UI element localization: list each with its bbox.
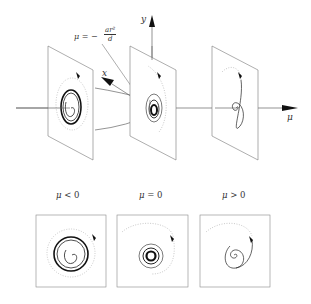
phase-portrait-mu-zero [117,215,188,287]
plane-mu-positive [212,46,258,160]
paraboloid-annotation-fraction: ar² d [104,26,116,43]
relation: > 0 [228,190,246,200]
plane-mu-negative [48,46,93,160]
case-label-mu-positive: μ > 0 [222,190,245,200]
case-label-mu-zero: μ = 0 [139,190,162,200]
phase-portrait-mu-positive [200,215,270,287]
plane-mu-zero [130,46,176,160]
relation: < 0 [62,190,80,200]
phase-portrait-mu-negative [36,215,106,287]
fraction-numerator: ar² [104,26,116,35]
relation: = 0 [145,190,163,200]
y-axis-arrowhead [149,15,155,27]
mu-axis-label: μ [287,112,293,122]
y-axis-label: y [141,14,146,24]
hopf-diagram-canvas [0,0,311,304]
x-axis-label: x [102,68,107,78]
case-label-mu-negative: μ < 0 [56,190,79,200]
mu-axis-arrowhead [282,105,298,111]
fraction-denominator: d [104,35,116,43]
paraboloid-annotation-lhs: μ = − [74,32,98,41]
x-axis-arrowhead [101,77,114,86]
